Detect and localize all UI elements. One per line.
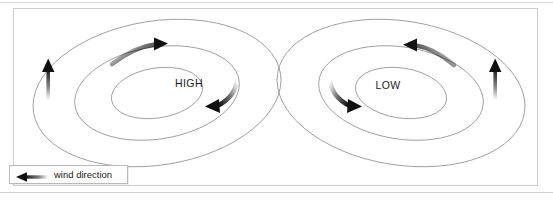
low-pressure-label: LOW [375,79,400,91]
high-isobar-middle [68,35,246,152]
high-top-clockwise-arrow [112,38,168,65]
low-pressure-system: LOW [266,9,535,184]
high-isobar-inner [108,61,207,125]
wind-direction-arrow-icon [15,169,49,181]
diagram-page: HIGH [0,0,553,201]
low-inflow-arrow-right [489,59,501,101]
diagram-panel: HIGH [13,8,538,186]
wind-direction-label: wind direction [54,169,112,180]
wind-direction-legend: wind direction [9,165,128,184]
high-bottom-clockwise-arrow [205,77,238,113]
low-isobar-inner [352,61,451,125]
high-pressure-label: HIGH [175,77,203,89]
high-pressure-system: HIGH [22,9,291,184]
low-isobar-middle [312,35,490,152]
high-isobars [22,9,291,184]
high-isobar-outer [22,9,291,184]
pressure-systems-svg: HIGH [14,9,539,187]
